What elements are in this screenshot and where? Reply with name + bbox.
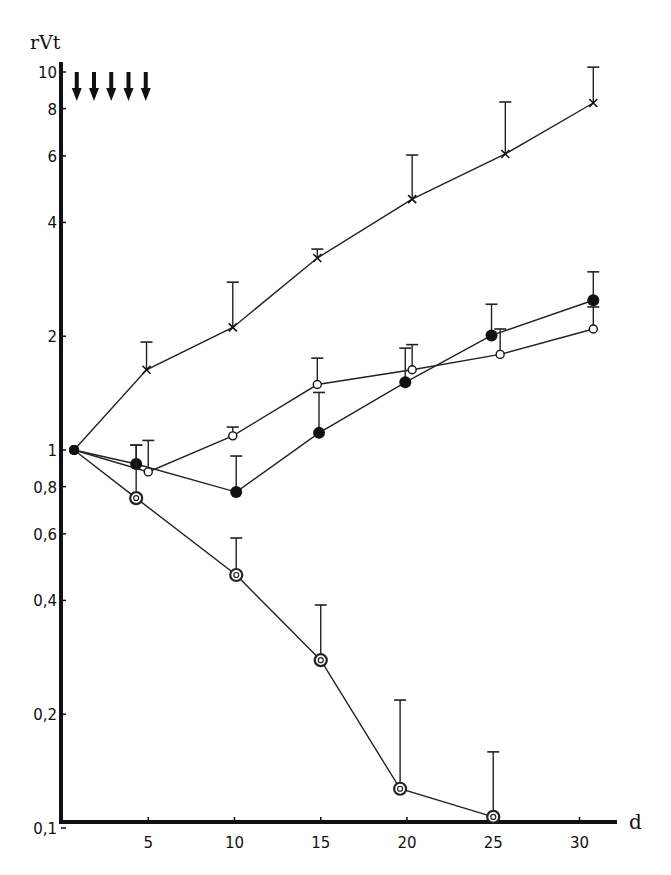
series-open-circle [69,307,599,476]
y-tick-label: 0,8 [33,479,57,497]
y-tick-label: 0,2 [33,706,57,724]
y-tick-label: 1 [47,442,57,460]
target-marker-inner [491,814,496,819]
y-tick-label: 8 [47,101,57,119]
y-axis-label: rVt [30,31,61,53]
open-circle-marker-icon [313,381,321,389]
down-arrow-head-icon [89,88,99,101]
target-marker-inner [318,658,323,663]
y-tick-label: 10 [38,64,57,82]
x-tick-label: 20 [397,834,416,852]
chart: 0,10,20,40,60,8124681051015202530 rVt d [0,0,671,875]
axes: 0,10,20,40,60,8124681051015202530 [33,62,617,852]
y-tick-label: 4 [47,214,57,232]
target-marker-inner [234,572,239,577]
y-tick-label: 0,4 [33,592,57,610]
filled-circle-marker-icon [313,427,325,439]
target-marker-inner [398,786,403,791]
origin-marker [69,445,79,455]
filled-circle-marker-icon [486,329,498,341]
series-layer [69,67,599,823]
y-tick-label: 6 [47,148,57,166]
y-tick-label: 0,1 [33,820,57,838]
series-line [74,300,593,492]
x-tick-label: 25 [484,834,503,852]
x-axis-label: d [629,810,642,834]
filled-circle-marker-icon [230,486,242,498]
treatment-arrows [72,72,151,101]
series-cross [69,67,599,455]
open-circle-marker-icon [408,366,416,374]
x-tick-label: 5 [143,834,153,852]
series-target-circle [69,445,499,823]
filled-circle-marker-icon [587,294,599,306]
target-marker-inner [134,496,139,501]
down-arrow-head-icon [106,88,116,101]
x-tick-label: 10 [225,834,244,852]
open-circle-marker-icon [589,325,597,333]
open-circle-marker-icon [229,432,237,440]
down-arrow-head-icon [124,88,134,101]
open-circle-marker-icon [144,468,152,476]
y-tick-label: 0,6 [33,526,57,544]
x-tick-label: 30 [570,834,589,852]
down-arrow-head-icon [141,88,151,101]
down-arrow-head-icon [72,88,82,101]
series-line [74,329,593,472]
y-tick-label: 2 [47,328,57,346]
open-circle-marker-icon [496,350,504,358]
filled-circle-marker-icon [399,376,411,388]
series-line [74,103,593,450]
x-tick-label: 15 [311,834,330,852]
